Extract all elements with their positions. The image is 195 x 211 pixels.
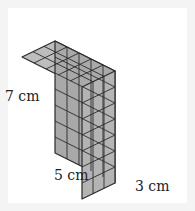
cube-prism-diagram: 7 cm 5 cm 3 cm bbox=[0, 0, 195, 211]
length-label: 5 cm bbox=[54, 167, 88, 183]
width-label: 3 cm bbox=[135, 178, 169, 194]
height-label: 7 cm bbox=[5, 88, 39, 104]
